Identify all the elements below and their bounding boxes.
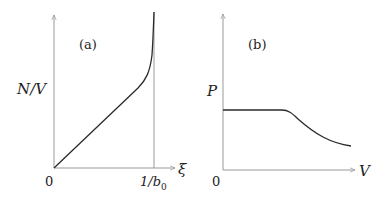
panel-b-origin: 0 xyxy=(212,174,220,189)
figure-canvas xyxy=(0,0,386,198)
panel-a-origin: 0 xyxy=(45,174,53,189)
panel-a-xlabel: ξ xyxy=(178,160,186,178)
pressure-curve xyxy=(223,110,351,146)
panel-b-axes xyxy=(223,14,355,170)
panel-a-axes xyxy=(54,12,175,168)
density-curve xyxy=(54,12,154,168)
panel-b-tag: (b) xyxy=(248,37,266,52)
panel-b-ylabel: P xyxy=(207,82,217,100)
panel-a-ylabel: N/V xyxy=(17,80,46,98)
panel-a-tag: (a) xyxy=(79,37,97,52)
panel-b-xlabel: V xyxy=(359,162,370,180)
panel-a-xtick: 1/b0 xyxy=(140,174,167,192)
